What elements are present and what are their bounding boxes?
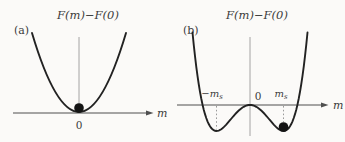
minus-ms-base: −m <box>201 88 219 99</box>
panel-a-ball <box>74 103 84 113</box>
panel-b-minus-ms-label: −ms <box>201 88 223 101</box>
panel-b-title: F(m)−F(0) <box>225 8 288 22</box>
panel-a: F(m)−F(0) (a) m 0 <box>13 8 167 131</box>
panel-b-ball <box>279 122 289 132</box>
minus-ms-subscript: s <box>219 93 223 101</box>
free-energy-figure: F(m)−F(0) (a) m 0 F(m)−F(0) (b) m <box>0 0 345 142</box>
panel-b-tag: (b) <box>183 24 199 37</box>
panel-b-plus-ms-label: ms <box>274 88 287 101</box>
panel-b: F(m)−F(0) (b) m −ms ms 0 <box>177 8 343 136</box>
plus-ms-base: m <box>274 88 283 99</box>
figure-canvas: F(m)−F(0) (a) m 0 F(m)−F(0) (b) m <box>0 0 345 142</box>
panel-a-axis-arrow-icon <box>146 110 154 115</box>
panel-a-m-label: m <box>157 107 167 120</box>
panel-a-tag: (a) <box>14 24 29 37</box>
panel-b-origin-label: 0 <box>255 90 262 102</box>
plus-ms-subscript: s <box>284 93 288 101</box>
panel-a-origin-label: 0 <box>76 119 83 131</box>
panel-b-axis-arrow-icon <box>321 102 329 107</box>
panel-a-title: F(m)−F(0) <box>56 8 119 22</box>
panel-b-m-label: m <box>333 99 343 112</box>
